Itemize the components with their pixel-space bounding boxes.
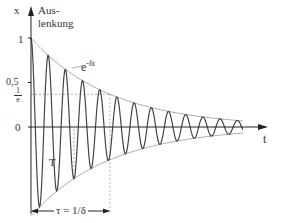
tick-label-one: 1 bbox=[18, 34, 24, 45]
inv-e-numerator: 1 bbox=[14, 87, 22, 95]
x-axis-arrow-icon bbox=[258, 124, 268, 130]
inv-e-denominator: e bbox=[14, 95, 22, 104]
y-axis-arrow-icon bbox=[28, 6, 34, 16]
period-label: T bbox=[49, 157, 56, 168]
envelope-upper bbox=[31, 38, 243, 121]
y-axis-label: x bbox=[14, 5, 20, 16]
x-axis-label: t bbox=[263, 133, 266, 145]
envelope-exponent: -δt bbox=[86, 59, 95, 68]
tau-arrow-right-icon bbox=[103, 209, 110, 214]
tick-label-inv-e: 1 e bbox=[14, 87, 22, 104]
y-axis-caption-1: Aus- bbox=[38, 5, 59, 16]
tick-label-zero: 0 bbox=[15, 122, 21, 133]
damped-oscillation-diagram bbox=[0, 0, 281, 223]
tau-label: τ = 1/δ bbox=[54, 205, 88, 216]
y-axis-caption-2: lenkung bbox=[38, 18, 73, 29]
tau-arrow-left-icon bbox=[31, 209, 38, 214]
envelope-label: e-δt bbox=[81, 60, 95, 73]
oscillation-curve bbox=[31, 38, 243, 207]
